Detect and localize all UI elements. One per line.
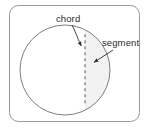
segment-label: segment [102, 37, 139, 48]
chord-label: chord [56, 13, 80, 24]
diagram-canvas: chord segment [0, 0, 152, 133]
chord-segment-diagram: chord segment [0, 0, 152, 133]
